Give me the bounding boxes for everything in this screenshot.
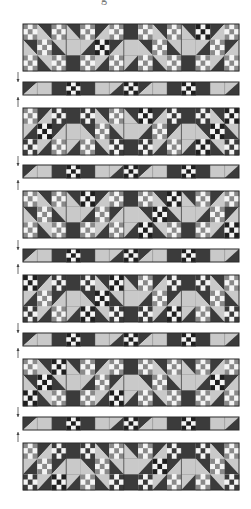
sashing-strip: [23, 249, 239, 262]
arrow-up-icon: [17, 432, 20, 442]
arrow-up-icon: [17, 97, 20, 107]
arrow-down-icon: [17, 407, 20, 417]
arrow-up-icon: [17, 264, 20, 274]
arrow-down-icon: [17, 240, 20, 250]
arrow-down-icon: [17, 72, 20, 82]
sashing-strip: [23, 82, 239, 95]
block-row: [23, 108, 239, 155]
block-row: [23, 443, 239, 490]
quilt-diagram: [0, 0, 251, 509]
sashing-strip: [23, 333, 239, 346]
arrow-down-icon: [17, 323, 20, 333]
arrow-down-icon: [17, 156, 20, 166]
block-row: [23, 275, 239, 322]
block-row: [23, 24, 239, 71]
block-row: [23, 359, 239, 406]
arrow-up-icon: [17, 348, 20, 358]
sashing-strip: [23, 417, 239, 430]
arrow-up-icon: [17, 180, 20, 190]
block-row: [23, 191, 239, 238]
sashing-strip: [23, 165, 239, 178]
